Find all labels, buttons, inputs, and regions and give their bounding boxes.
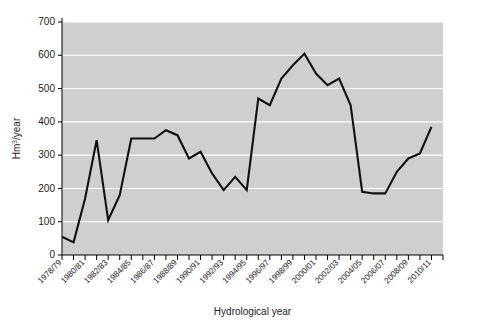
x-tick-label-2010/11: 2010/11 bbox=[406, 258, 433, 285]
x-axis-title: Hydrological year bbox=[214, 306, 292, 317]
x-tick-label-2000/01: 2000/01 bbox=[290, 258, 318, 286]
x-tick-label-1990/91: 1990/91 bbox=[175, 258, 203, 286]
y-tick-label-700: 700 bbox=[38, 16, 55, 27]
x-tick-label-1978/79: 1978/79 bbox=[36, 258, 64, 286]
y-tick-label-300: 300 bbox=[38, 149, 55, 160]
y-tick-label-400: 400 bbox=[38, 116, 55, 127]
chart-container: 01002003004005006007001978/791980/811982… bbox=[0, 0, 496, 325]
x-tick-label-1992/93: 1992/93 bbox=[198, 258, 226, 286]
x-tick-label-2004/05: 2004/05 bbox=[336, 258, 364, 286]
x-tick-label-1982/83: 1982/83 bbox=[82, 258, 110, 286]
x-tick-label-2006/07: 2006/07 bbox=[359, 258, 387, 286]
y-tick-label-600: 600 bbox=[38, 49, 55, 60]
x-tick-label-1988/89: 1988/89 bbox=[152, 258, 180, 286]
x-tick-label-1998/99: 1998/99 bbox=[267, 258, 295, 286]
y-tick-label-100: 100 bbox=[38, 216, 55, 227]
x-tick-label-1994/95: 1994/95 bbox=[221, 258, 249, 286]
x-tick-label-1986/87: 1986/87 bbox=[128, 258, 156, 286]
x-tick-label-1996/97: 1996/97 bbox=[244, 258, 272, 286]
y-tick-label-200: 200 bbox=[38, 183, 55, 194]
y-tick-label-0: 0 bbox=[49, 249, 55, 260]
x-tick-label-2002/03: 2002/03 bbox=[313, 258, 341, 286]
y-tick-label-500: 500 bbox=[38, 83, 55, 94]
hydrological-year-line-chart: 01002003004005006007001978/791980/811982… bbox=[0, 0, 496, 325]
x-tick-label-2008/09: 2008/09 bbox=[382, 258, 410, 286]
x-tick-label-1980/81: 1980/81 bbox=[59, 258, 87, 286]
x-tick-label-1984/85: 1984/85 bbox=[105, 258, 133, 286]
y-axis-title: Hm3/year bbox=[11, 117, 22, 159]
